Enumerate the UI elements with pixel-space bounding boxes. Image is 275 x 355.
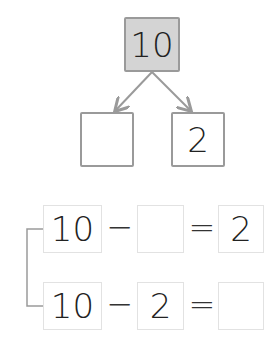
eq1-equals: = <box>188 208 216 246</box>
eq1-result: 2 <box>218 205 264 253</box>
eq2-minus: − <box>106 285 134 323</box>
part-box-left[interactable] <box>80 112 134 167</box>
whole-box: 10 <box>124 17 180 72</box>
eq2-subtrahend: 2 <box>137 282 184 330</box>
eq2-result[interactable] <box>218 282 264 330</box>
eq1-minuend: 10 <box>43 205 102 253</box>
eq2-equals: = <box>188 285 216 323</box>
arrow-left <box>116 72 152 110</box>
eq2-minuend: 10 <box>43 282 102 330</box>
bracket-line <box>27 229 43 306</box>
eq1-minus: − <box>106 208 134 246</box>
arrow-right <box>152 72 190 110</box>
part-box-right[interactable]: 2 <box>171 112 225 167</box>
eq1-subtrahend[interactable] <box>137 205 184 253</box>
